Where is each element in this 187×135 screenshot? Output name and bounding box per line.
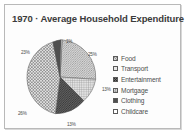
pie-plot-area: 1% 25% 13% 13% 26% 23%	[11, 29, 111, 127]
pie-slices	[27, 40, 96, 114]
legend-label-childcare: Childcare	[121, 108, 148, 115]
legend-label-clothing: Clothing	[121, 97, 144, 104]
pie-label-food: 25%	[88, 52, 97, 57]
legend-item-clothing[interactable]: Clothing	[113, 95, 179, 106]
legend-item-transport[interactable]: Transport	[113, 64, 179, 75]
pie-label-entertainment: 13%	[67, 122, 76, 127]
chart-title: 1970 · Average Household Expenditure	[12, 13, 177, 24]
legend-item-food[interactable]: Food	[113, 53, 179, 64]
legend-label-food: Food	[121, 55, 136, 62]
legend-item-mortgage[interactable]: Mortgage	[113, 85, 179, 96]
legend-item-childcare[interactable]: Childcare	[113, 106, 179, 117]
legend-label-transport: Transport	[121, 65, 148, 72]
pie-slice-food	[60, 40, 96, 80]
legend-swatch-clothing-icon	[113, 98, 118, 103]
pie-label-mortgage: 26%	[18, 111, 27, 116]
pie-label-clothing: 23%	[21, 50, 30, 55]
legend-swatch-childcare-icon	[113, 109, 118, 114]
pie-label-childcare: 1%	[66, 39, 72, 44]
legend-item-entertainment[interactable]: Entertainment	[113, 74, 179, 85]
pie-chart: 1% 25% 13% 13% 26% 23%	[22, 39, 98, 115]
chart-legend: Food Transport Entertainment Mortgage Cl…	[113, 53, 179, 117]
legend-swatch-food-icon	[113, 56, 118, 61]
pie-svg	[22, 39, 98, 115]
legend-label-mortgage: Mortgage	[121, 87, 148, 94]
legend-swatch-transport-icon	[113, 66, 118, 71]
legend-swatch-entertainment-icon	[113, 77, 118, 82]
pie-label-transport: 13%	[102, 87, 111, 92]
legend-swatch-mortgage-icon	[113, 88, 118, 93]
legend-label-entertainment: Entertainment	[121, 76, 161, 83]
chart-card: 1970 · Average Household Expenditure	[4, 4, 181, 129]
